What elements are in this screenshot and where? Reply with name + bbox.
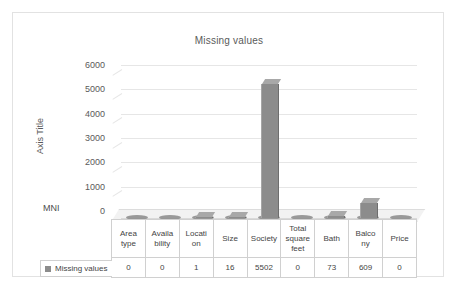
table-header-cell: Bath xyxy=(315,220,349,258)
table-value-cell: 0 xyxy=(145,258,179,278)
bar-slot[interactable] xyxy=(393,63,409,218)
legend-square-marker xyxy=(45,266,51,272)
bar-top-face xyxy=(361,198,380,203)
bar-top-face xyxy=(328,211,347,216)
legend: Missing values xyxy=(40,260,112,277)
table-header-cell: Availa bility xyxy=(145,220,179,258)
y-axis-tick-label: 6000 xyxy=(59,60,105,70)
table-value-cell: 5502 xyxy=(247,258,281,278)
bar-slot[interactable] xyxy=(162,63,178,218)
bar[interactable] xyxy=(261,84,279,218)
bar-top-face xyxy=(262,79,281,84)
legend-label: Missing values xyxy=(55,264,107,273)
table-header-cell: Price xyxy=(383,220,417,258)
chart-title: Missing values xyxy=(13,35,445,46)
table-value-cell: 0 xyxy=(281,258,315,278)
table-header-cell: Total square feet xyxy=(281,220,315,258)
bar[interactable] xyxy=(195,217,213,218)
table-value-cell: 16 xyxy=(213,258,247,278)
bar-slot[interactable] xyxy=(327,63,343,218)
bar-top-face xyxy=(229,212,248,217)
table-row: 0011655020736090 xyxy=(112,258,417,278)
bar[interactable] xyxy=(327,216,345,218)
table-header-cell: Society xyxy=(247,220,281,258)
y-axis-tick-label: 2000 xyxy=(59,157,105,167)
bar-slot[interactable] xyxy=(261,63,277,218)
y-axis-tick-label: 3000 xyxy=(59,133,105,143)
table-value-cell: 609 xyxy=(349,258,383,278)
table-value-cell: 1 xyxy=(179,258,213,278)
bar[interactable] xyxy=(228,217,246,218)
bar[interactable] xyxy=(360,203,378,218)
chart-container: Missing values Axis Title MNI 6000500040… xyxy=(12,12,444,277)
bar-series xyxy=(121,63,417,220)
y-axis-tick-label: 5000 xyxy=(59,84,105,94)
table-value-cell: 0 xyxy=(112,258,146,278)
y-axis-tick-label: 0 xyxy=(59,206,105,216)
bar-slot[interactable] xyxy=(294,63,310,218)
table-value-cell: 73 xyxy=(315,258,349,278)
table-header-cell: Locati on xyxy=(179,220,213,258)
y-axis-tick-label: 4000 xyxy=(59,109,105,119)
data-table: Area typeAvaila bilityLocati onSizeSocie… xyxy=(111,219,417,278)
bar-slot[interactable] xyxy=(195,63,211,218)
y-axis-title: Axis Title xyxy=(35,101,45,171)
bar-slot[interactable] xyxy=(228,63,244,218)
plot-area: 6000500040003000200010000 xyxy=(111,63,417,218)
bar-slot[interactable] xyxy=(360,63,376,218)
table-header-cell: Size xyxy=(213,220,247,258)
bar-top-face xyxy=(196,212,215,217)
bar-slot[interactable] xyxy=(129,63,145,218)
table-header-cell: Balco ny xyxy=(349,220,383,258)
mni-label: MNI xyxy=(43,203,60,213)
table-header-cell: Area type xyxy=(112,220,146,258)
table-header-row: Area typeAvaila bilityLocati onSizeSocie… xyxy=(112,220,417,258)
y-axis-tick-label: 1000 xyxy=(59,182,105,192)
table-value-cell: 0 xyxy=(383,258,417,278)
